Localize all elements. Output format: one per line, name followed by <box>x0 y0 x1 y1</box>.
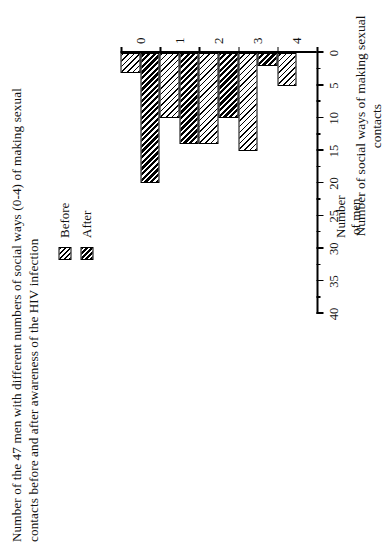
value-axis-major-tick <box>316 247 323 249</box>
value-axis-major-tick <box>316 84 323 86</box>
bar-after-category-2 <box>218 53 238 118</box>
value-axis-minor-tick <box>316 133 320 135</box>
bar-before-category-0 <box>120 53 140 73</box>
value-axis-tick-label: 5 <box>326 83 341 89</box>
value-axis-minor-tick <box>316 231 320 233</box>
value-axis-tick-label: 0 <box>326 50 341 56</box>
value-axis-major-tick <box>316 313 323 315</box>
value-axis-tick-label: 10 <box>326 112 341 125</box>
bar-before-category-4 <box>277 53 297 86</box>
value-axis-tick-label: 35 <box>326 275 341 288</box>
category-axis-tick-label: 0 <box>132 38 148 45</box>
bar-before-category-1 <box>159 53 179 118</box>
value-axis-tick-label: 30 <box>326 243 341 256</box>
value-axis-tick-label: 40 <box>326 308 341 321</box>
category-axis-tick-label: 4 <box>288 38 304 45</box>
value-axis-title-line1: Number <box>332 195 347 238</box>
category-axis-title: Number of social ways of making sexual c… <box>352 0 384 256</box>
value-axis-major-tick <box>316 215 323 217</box>
value-axis-major-tick <box>316 149 323 151</box>
value-axis-minor-tick <box>316 68 320 70</box>
bar-before-category-3 <box>238 53 258 151</box>
value-axis-minor-tick <box>316 100 320 102</box>
value-axis-minor-tick <box>316 198 320 200</box>
value-axis-tick-label: 15 <box>326 145 341 158</box>
bar-after-category-0 <box>140 53 160 184</box>
value-axis-minor-tick <box>316 264 320 266</box>
value-axis-minor-tick <box>316 166 320 168</box>
bar-before-category-2 <box>198 53 218 144</box>
category-axis-tick <box>316 47 318 53</box>
category-axis-tick-label: 1 <box>171 38 187 45</box>
category-axis-tick-label: 3 <box>249 38 265 45</box>
bar-after-category-1 <box>179 53 199 144</box>
bar-after-category-3 <box>257 53 277 66</box>
value-axis-major-tick <box>316 117 323 119</box>
value-axis-minor-tick <box>316 296 320 298</box>
value-axis-major-tick <box>316 182 323 184</box>
value-axis-tick-label: 20 <box>326 177 341 190</box>
value-axis-major-tick <box>316 280 323 282</box>
category-axis-tick-label: 2 <box>210 38 226 45</box>
